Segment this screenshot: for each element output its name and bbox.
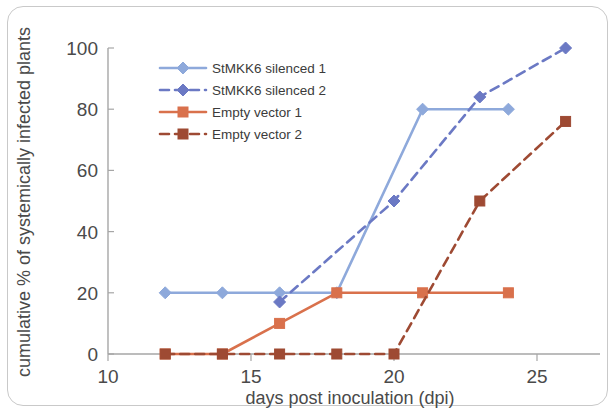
series-marker [275,349,285,359]
series-marker [503,288,513,298]
data-series [274,42,572,308]
legend-marker-swatch [178,129,188,139]
y-tick-label: 20 [77,283,98,304]
legend-marker-swatch [178,107,188,117]
series-marker [159,287,171,299]
line-chart-svg: 020406080100 10152025 days post inoculat… [0,0,616,414]
x-tick-label: 25 [526,366,547,387]
chart-plot-area: 020406080100 10152025 days post inoculat… [0,0,616,414]
legend-item: Empty vector 2 [160,127,302,142]
x-axis-title: days post inoculation (dpi) [245,388,454,408]
x-tick-label: 10 [97,366,118,387]
x-axis-tick-labels: 10152025 [97,366,547,387]
y-tick-label: 40 [77,222,98,243]
series-marker [217,349,227,359]
legend-label: StMKK6 silenced 1 [212,61,326,76]
series-marker [561,116,571,126]
legend-item: StMKK6 silenced 1 [160,61,326,76]
series-marker [560,42,572,54]
x-tick-label: 15 [240,366,261,387]
series-line [165,121,565,354]
y-tick-label: 60 [77,160,98,181]
series-marker [475,196,485,206]
series-marker [332,349,342,359]
y-axis-ticks [108,48,114,354]
legend-item: StMKK6 silenced 2 [160,83,326,98]
series-marker [417,103,429,115]
y-tick-label: 100 [66,38,98,59]
chart-legend: StMKK6 silenced 1StMKK6 silenced 2Empty … [160,61,326,142]
y-tick-label: 80 [77,99,98,120]
x-tick-label: 20 [383,366,404,387]
legend-label: StMKK6 silenced 2 [212,83,326,98]
legend-marker-swatch [177,84,189,96]
series-marker [160,349,170,359]
figure-root: 020406080100 10152025 days post inoculat… [0,0,616,414]
series-marker [332,288,342,298]
legend-label: Empty vector 1 [212,105,302,120]
series-marker [389,349,399,359]
y-axis-title: cumulative % of systemically infected pl… [14,27,34,377]
data-series [160,116,570,359]
series-marker [275,318,285,328]
y-tick-label: 0 [87,344,98,365]
legend-marker-swatch [177,62,189,74]
series-marker [216,287,228,299]
legend-label: Empty vector 2 [212,127,302,142]
legend-item: Empty vector 1 [160,105,302,120]
series-line [165,293,508,354]
series-marker [502,103,514,115]
series-marker [474,91,486,103]
y-axis-tick-labels: 020406080100 [66,38,98,365]
